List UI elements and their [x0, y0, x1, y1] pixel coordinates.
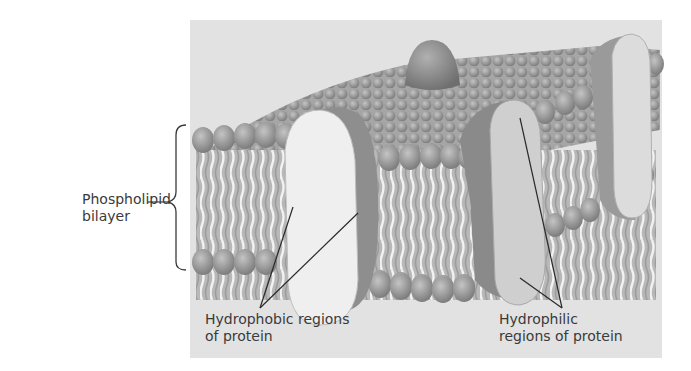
label-phospholipid-bilayer: Phospholipid bilayer	[82, 191, 171, 225]
label-hydrophobic-line1: Hydrophobic regions	[205, 311, 350, 328]
label-hydrophobic-regions: Hydrophobic regions of protein	[205, 311, 350, 345]
label-hydrophilic-regions: Hydrophilic regions of protein	[499, 311, 623, 345]
label-hydrophobic-line2: of protein	[205, 328, 350, 345]
label-bilayer-line1: Phospholipid	[82, 191, 171, 208]
label-hydrophilic-line2: regions of protein	[499, 328, 623, 345]
label-bilayer-line2: bilayer	[82, 208, 171, 225]
peripheral-protein	[405, 40, 460, 90]
label-hydrophilic-line1: Hydrophilic	[499, 311, 623, 328]
protein-left	[285, 107, 378, 325]
